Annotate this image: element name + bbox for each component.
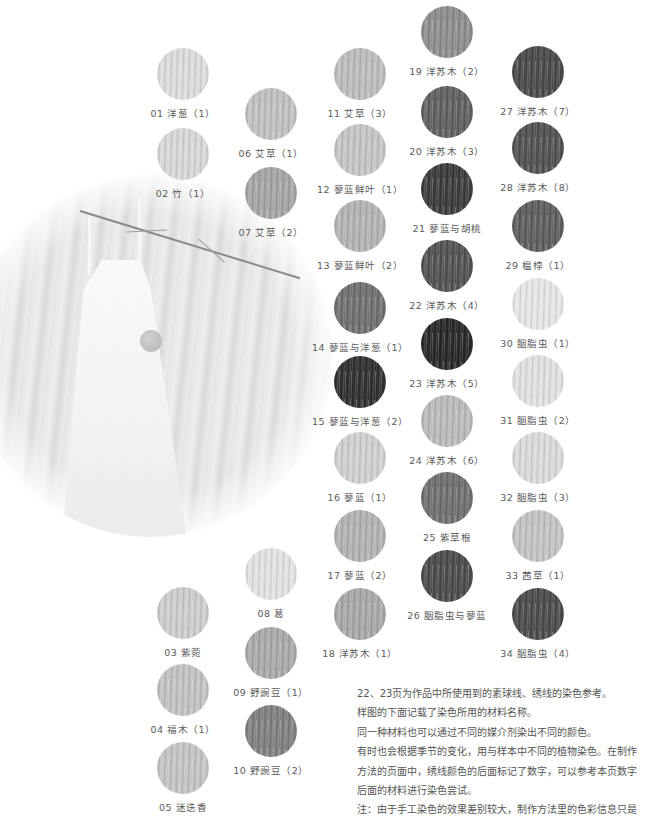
swatch-label: 03 紫菀 — [135, 645, 231, 659]
note-line: 样图的下面记载了染色所用的材料名称。 — [357, 703, 649, 722]
swatch-label: 05 迷迭香 — [135, 800, 231, 814]
thread-swatch-disc — [512, 355, 564, 407]
pompom-ornament — [140, 330, 162, 352]
swatch-label: 19 洋苏木（2） — [399, 64, 495, 78]
swatch-item: 24 洋苏木（6） — [399, 395, 495, 467]
swatch-label: 13 蓼蓝鲜叶（2） — [312, 258, 408, 272]
thread-swatch-disc — [334, 200, 386, 252]
swatch-label: 15 蓼蓝与洋葱（2） — [312, 414, 408, 428]
thread-swatch-disc — [334, 432, 386, 484]
swatch-label: 27 洋苏木（7） — [490, 104, 586, 118]
swatch-item: 30 胭脂虫（1） — [490, 278, 586, 350]
swatch-item: 32 胭脂虫（3） — [490, 432, 586, 504]
swatch-item: 01 洋葱（1） — [135, 48, 231, 120]
thread-swatch-disc — [421, 163, 473, 215]
swatch-label: 28 洋苏木（8） — [490, 180, 586, 194]
swatch-item: 08 葛 — [223, 548, 319, 620]
swatch-item: 14 蓼蓝与洋葱（1） — [312, 282, 408, 354]
swatch-item: 29 榅桲（1） — [490, 200, 586, 272]
thread-swatch-disc — [421, 550, 473, 602]
swatch-label: 34 胭脂虫（4） — [490, 646, 586, 660]
swatch-item: 05 迷迭香 — [135, 742, 231, 814]
swatch-label: 06 艾草（1） — [223, 146, 319, 160]
thread-swatch-disc — [421, 86, 473, 138]
swatch-label: 11 艾草（3） — [312, 106, 408, 120]
swatch-label: 07 艾草（2） — [223, 225, 319, 239]
thread-swatch-disc — [157, 742, 209, 794]
swatch-label: 04 福木（1） — [135, 722, 231, 736]
thread-swatch-disc — [421, 6, 473, 58]
thread-swatch-disc — [512, 200, 564, 252]
dress-strap-right — [138, 195, 141, 275]
thread-swatch-disc — [157, 48, 209, 100]
note-line: 22、23页为作品中所使用到的素球线、绣线的染色参考。 — [357, 684, 649, 703]
swatch-label: 08 葛 — [223, 606, 319, 620]
swatch-label: 12 蓼蓝鲜叶（1） — [312, 182, 408, 196]
swatch-label: 23 洋苏木（5） — [399, 376, 495, 390]
thread-swatch-disc — [334, 588, 386, 640]
swatch-item: 15 蓼蓝与洋葱（2） — [312, 356, 408, 428]
swatch-label: 10 野豌豆（2） — [223, 763, 319, 777]
thread-swatch-disc — [245, 705, 297, 757]
swatch-label: 30 胭脂虫（1） — [490, 336, 586, 350]
thread-swatch-disc — [157, 664, 209, 716]
swatch-label: 18 洋苏木（1） — [312, 646, 408, 660]
thread-swatch-disc — [512, 432, 564, 484]
swatch-item: 10 野豌豆（2） — [223, 705, 319, 777]
swatch-label: 02 竹（1） — [135, 186, 231, 200]
thread-swatch-disc — [512, 46, 564, 98]
swatch-item: 21 蓼蓝与胡桃 — [399, 163, 495, 235]
swatch-item: 26 胭脂虫与蓼蓝 — [399, 550, 495, 622]
thread-swatch-disc — [421, 395, 473, 447]
thread-swatch-disc — [334, 48, 386, 100]
thread-swatch-disc — [334, 124, 386, 176]
swatch-label: 24 洋苏木（6） — [399, 453, 495, 467]
swatch-item: 07 艾草（2） — [223, 167, 319, 239]
swatch-item: 16 蓼蓝（1） — [312, 432, 408, 504]
thread-swatch-disc — [157, 128, 209, 180]
swatch-item: 09 野豌豆（1） — [223, 627, 319, 699]
swatch-item: 13 蓼蓝鲜叶（2） — [312, 200, 408, 272]
notes-text: 22、23页为作品中所使用到的素球线、绣线的染色参考。 样图的下面记载了染色所用… — [357, 684, 649, 819]
thread-swatch-disc — [512, 588, 564, 640]
thread-swatch-disc — [245, 88, 297, 140]
swatch-item: 22 洋苏木（4） — [399, 240, 495, 312]
swatch-item: 33 茜草（1） — [490, 510, 586, 582]
swatch-item: 28 洋苏木（8） — [490, 122, 586, 194]
swatch-label: 21 蓼蓝与胡桃 — [399, 221, 495, 235]
swatch-label: 32 胭脂虫（3） — [490, 490, 586, 504]
swatch-item: 04 福木（1） — [135, 664, 231, 736]
swatch-label: 33 茜草（1） — [490, 568, 586, 582]
swatch-label: 16 蓼蓝（1） — [312, 490, 408, 504]
swatch-label: 25 紫草根 — [399, 530, 495, 544]
thread-swatch-disc — [245, 167, 297, 219]
swatch-item: 12 蓼蓝鲜叶（1） — [312, 124, 408, 196]
swatch-label: 01 洋葱（1） — [135, 106, 231, 120]
dress-shape — [60, 260, 190, 537]
swatch-item: 17 蓼蓝（2） — [312, 510, 408, 582]
swatch-item: 19 洋苏木（2） — [399, 6, 495, 78]
swatch-label: 22 洋苏木（4） — [399, 298, 495, 312]
thread-swatch-disc — [512, 510, 564, 562]
note-line: 方法的页面中，绣线颜色的后面标记了数字，可以参考本页数字 — [357, 762, 649, 781]
thread-swatch-disc — [245, 548, 297, 600]
swatch-item: 25 紫草根 — [399, 472, 495, 544]
swatch-item: 18 洋苏木（1） — [312, 588, 408, 660]
thread-swatch-disc — [245, 627, 297, 679]
note-line: 后面的材料进行染色尝试。 — [357, 781, 649, 800]
swatch-item: 34 胭脂虫（4） — [490, 588, 586, 660]
swatch-item: 31 胭脂虫（2） — [490, 355, 586, 427]
thread-swatch-disc — [334, 356, 386, 408]
swatch-item: 20 洋苏木（3） — [399, 86, 495, 158]
note-line: 注：由于手工染色的效果差别较大，制作方法里的色彩信息只是 — [357, 800, 649, 819]
swatch-item: 03 紫菀 — [135, 587, 231, 659]
note-line: 有时也会根据季节的变化，用与样本中不同的植物染色。在制作 — [357, 742, 649, 761]
swatch-item: 02 竹（1） — [135, 128, 231, 200]
note-line: 同一种材料也可以通过不同的媒介剂染出不同的颜色。 — [357, 723, 649, 742]
thread-swatch-disc — [157, 587, 209, 639]
swatch-item: 06 艾草（1） — [223, 88, 319, 160]
thread-swatch-disc — [512, 278, 564, 330]
swatch-item: 23 洋苏木（5） — [399, 318, 495, 390]
dress-strap-left — [88, 195, 91, 275]
swatch-label: 29 榅桲（1） — [490, 258, 586, 272]
